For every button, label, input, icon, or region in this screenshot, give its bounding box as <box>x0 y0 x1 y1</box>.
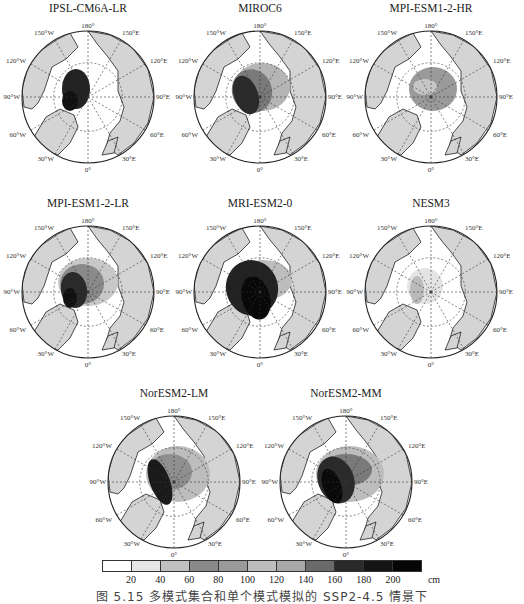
svg-text:150°E: 150°E <box>208 414 226 422</box>
svg-text:60°E: 60°E <box>322 326 336 334</box>
svg-text:90°W: 90°W <box>262 478 279 486</box>
map-panel-noresm2-mm: 180°0°90°W90°E150°W150°E120°W120°E60°W60… <box>258 385 434 575</box>
svg-text:90°E: 90°E <box>328 93 342 101</box>
svg-text:150°W: 150°W <box>34 224 54 232</box>
svg-text:150°E: 150°E <box>294 224 312 232</box>
svg-text:90°W: 90°W <box>90 478 107 486</box>
polar-map: 180°0°90°W90°E150°W150°E120°W120°E60°W60… <box>86 389 262 579</box>
svg-text:90°W: 90°W <box>4 288 21 296</box>
svg-text:150°W: 150°W <box>292 414 312 422</box>
svg-text:60°E: 60°E <box>236 516 250 524</box>
map-panel-mri-esm2-0: 180°0°90°W90°E150°W150°E120°W120°E60°W60… <box>172 195 348 385</box>
svg-text:120°E: 120°E <box>322 252 340 260</box>
svg-text:0°: 0° <box>171 551 178 559</box>
svg-text:180°: 180° <box>81 217 95 225</box>
svg-text:120°W: 120°W <box>349 252 369 260</box>
svg-text:150°E: 150°E <box>380 414 398 422</box>
svg-text:150°W: 150°W <box>34 29 54 37</box>
svg-text:0°: 0° <box>428 166 435 174</box>
colorbar-tick-label: 140 <box>298 574 313 585</box>
colorbar-unit-label: cm <box>428 574 440 585</box>
svg-text:0°: 0° <box>85 361 92 369</box>
svg-text:30°E: 30°E <box>294 350 308 358</box>
svg-text:120°W: 120°W <box>264 442 284 450</box>
colorbar-swatch <box>335 561 364 571</box>
svg-text:30°W: 30°W <box>381 350 398 358</box>
map-panel-ipsl-cm6a-lr: 180°0°90°W90°E150°W150°E120°W120°E60°W60… <box>0 0 176 190</box>
svg-text:120°E: 120°E <box>493 57 511 65</box>
sea-ice-field <box>407 268 443 304</box>
polar-map: 180°0°90°W90°E150°W150°E120°W120°E60°W60… <box>0 4 176 194</box>
svg-text:150°W: 150°W <box>206 224 226 232</box>
map-panel-noresm2-lm: 180°0°90°W90°E150°W150°E120°W120°E60°W60… <box>86 385 262 575</box>
svg-text:30°W: 30°W <box>38 155 55 163</box>
svg-text:60°E: 60°E <box>322 131 336 139</box>
map-panel-mpi-esm1-2-hr: 180°0°90°W90°E150°W150°E120°W120°E60°W60… <box>343 0 519 190</box>
svg-text:120°E: 120°E <box>408 442 426 450</box>
svg-text:180°: 180° <box>424 217 438 225</box>
svg-text:30°E: 30°E <box>208 540 222 548</box>
svg-text:60°W: 60°W <box>182 131 199 139</box>
colorbar-swatch <box>306 561 335 571</box>
map-panel-mpi-esm1-2-lr: 180°0°90°W90°E150°W150°E120°W120°E60°W60… <box>0 195 176 385</box>
colorbar-tick-label: 80 <box>213 574 223 585</box>
svg-text:180°: 180° <box>339 407 353 415</box>
colorbar-tick-label: 120 <box>269 574 284 585</box>
colorbar <box>102 560 422 572</box>
svg-text:30°W: 30°W <box>124 540 141 548</box>
svg-text:120°W: 120°W <box>6 57 26 65</box>
svg-text:150°E: 150°E <box>122 224 140 232</box>
colorbar-tick-label: 160 <box>327 574 342 585</box>
panel-title: MPI-ESM1-2-LR <box>0 197 176 209</box>
svg-text:90°W: 90°W <box>176 93 193 101</box>
svg-text:60°E: 60°E <box>150 326 164 334</box>
colorbar-swatch <box>103 561 132 571</box>
colorbar-tick-label: 100 <box>240 574 255 585</box>
svg-text:180°: 180° <box>253 22 267 30</box>
svg-text:60°E: 60°E <box>493 326 507 334</box>
svg-text:180°: 180° <box>167 407 181 415</box>
svg-text:90°E: 90°E <box>156 93 170 101</box>
svg-text:90°E: 90°E <box>242 478 256 486</box>
svg-text:180°: 180° <box>81 22 95 30</box>
colorbar-swatch <box>364 561 393 571</box>
svg-text:60°W: 60°W <box>182 326 199 334</box>
svg-text:0°: 0° <box>257 361 264 369</box>
svg-text:0°: 0° <box>257 166 264 174</box>
svg-text:180°: 180° <box>253 217 267 225</box>
svg-text:60°W: 60°W <box>10 131 27 139</box>
svg-text:60°E: 60°E <box>408 516 422 524</box>
polar-map: 180°0°90°W90°E150°W150°E120°W120°E60°W60… <box>258 389 434 579</box>
svg-text:30°E: 30°E <box>122 350 136 358</box>
svg-text:120°W: 120°W <box>92 442 112 450</box>
svg-text:90°W: 90°W <box>176 288 193 296</box>
colorbar-tick-label: 180 <box>356 574 371 585</box>
svg-text:0°: 0° <box>343 551 350 559</box>
svg-text:90°W: 90°W <box>347 288 364 296</box>
svg-text:150°E: 150°E <box>465 224 483 232</box>
polar-map: 180°0°90°W90°E150°W150°E120°W120°E60°W60… <box>343 199 519 389</box>
svg-text:120°W: 120°W <box>178 57 198 65</box>
svg-text:150°E: 150°E <box>465 29 483 37</box>
svg-text:30°W: 30°W <box>210 155 227 163</box>
svg-text:0°: 0° <box>85 166 92 174</box>
map-panel-nesm3: 180°0°90°W90°E150°W150°E120°W120°E60°W60… <box>343 195 519 385</box>
colorbar-swatch <box>161 561 190 571</box>
svg-text:60°W: 60°W <box>10 326 27 334</box>
svg-text:90°E: 90°E <box>499 288 513 296</box>
svg-text:120°W: 120°W <box>6 252 26 260</box>
polar-map: 180°0°90°W90°E150°W150°E120°W120°E60°W60… <box>0 199 176 389</box>
svg-text:180°: 180° <box>424 22 438 30</box>
svg-text:90°W: 90°W <box>347 93 364 101</box>
svg-text:60°E: 60°E <box>150 131 164 139</box>
svg-text:120°E: 120°E <box>322 57 340 65</box>
polar-map: 180°0°90°W90°E150°W150°E120°W120°E60°W60… <box>172 199 348 389</box>
svg-text:150°W: 150°W <box>120 414 140 422</box>
svg-text:150°E: 150°E <box>294 29 312 37</box>
polar-map: 180°0°90°W90°E150°W150°E120°W120°E60°W60… <box>172 4 348 194</box>
panel-title: MPI-ESM1-2-HR <box>343 2 519 14</box>
svg-text:90°E: 90°E <box>156 288 170 296</box>
svg-text:30°E: 30°E <box>465 155 479 163</box>
svg-text:150°W: 150°W <box>377 224 397 232</box>
polar-map: 180°0°90°W90°E150°W150°E120°W120°E60°W60… <box>343 4 519 194</box>
